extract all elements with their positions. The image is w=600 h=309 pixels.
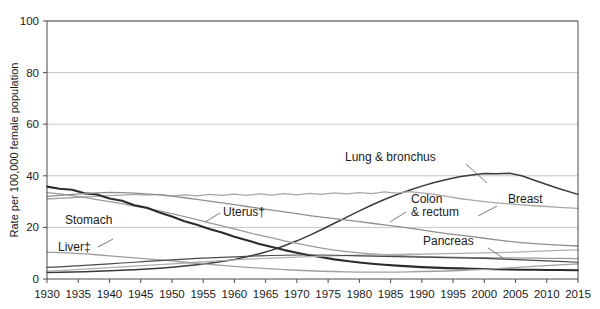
y-tick-label-40: 40: [26, 170, 39, 182]
series-label-pancreas: Pancreas: [423, 234, 474, 248]
chart-container: 1930193519401945195019551960196519701975…: [0, 0, 600, 309]
x-tick-label-1930: 1930: [34, 288, 60, 300]
x-tick-label-1990: 1990: [409, 288, 435, 300]
y-axis-ticks: 020406080100: [20, 15, 47, 285]
x-tick-label-1955: 1955: [190, 288, 216, 300]
x-tick-label-1965: 1965: [253, 288, 279, 300]
x-tick-label-2015: 2015: [565, 288, 591, 300]
x-tick-label-1985: 1985: [378, 288, 404, 300]
x-tick-label-2000: 2000: [471, 288, 497, 300]
y-tick-label-60: 60: [26, 118, 39, 130]
y-tick-label-20: 20: [26, 221, 39, 233]
series-label-lung-bronchus: Lung & bronchus: [345, 150, 436, 164]
x-axis-ticks: 1930193519401945195019551960196519701975…: [34, 279, 591, 300]
line-chart: 1930193519401945195019551960196519701975…: [0, 0, 600, 309]
series-label-rectum: & rectum: [411, 205, 459, 219]
x-tick-label-1970: 1970: [284, 288, 310, 300]
x-tick-label-1945: 1945: [128, 288, 154, 300]
x-tick-label-2010: 2010: [534, 288, 560, 300]
series-label-stomach: Stomach: [65, 213, 112, 227]
series-label-colon: Colon: [411, 192, 442, 206]
y-tick-label-100: 100: [20, 15, 39, 27]
series-label-liver: Liver‡: [58, 240, 91, 254]
x-tick-label-1960: 1960: [222, 288, 248, 300]
x-tick-label-1940: 1940: [97, 288, 123, 300]
x-tick-label-1980: 1980: [347, 288, 373, 300]
x-tick-label-1995: 1995: [440, 288, 466, 300]
x-tick-label-1950: 1950: [159, 288, 185, 300]
series-label-breast: Breast: [508, 192, 543, 206]
x-tick-label-1975: 1975: [315, 288, 341, 300]
y-tick-label-80: 80: [26, 67, 39, 79]
y-tick-label-0: 0: [33, 273, 39, 285]
y-axis-title: Rate per 100,000 female population: [8, 63, 20, 238]
series-label-uterus: Uterus†: [223, 205, 265, 219]
x-tick-label-1935: 1935: [65, 288, 91, 300]
x-tick-label-2005: 2005: [503, 288, 529, 300]
